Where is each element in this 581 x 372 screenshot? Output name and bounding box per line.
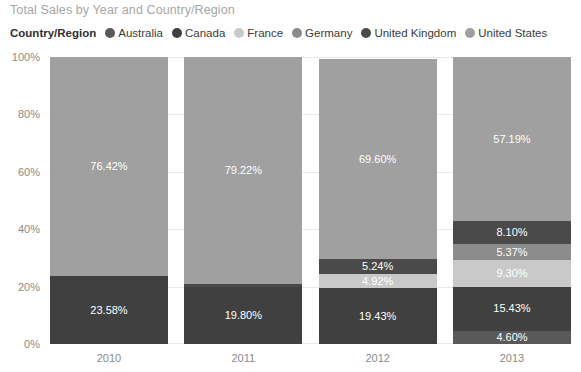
bar-stack: 4.60%15.43%9.30%5.37%8.10%57.19% [453, 57, 571, 344]
bar-segment[interactable]: 57.19% [453, 57, 571, 221]
bar-column-2010[interactable]: 23.58%76.42% [50, 57, 168, 344]
chart-container: Total Sales by Year and Country/Region C… [0, 0, 581, 372]
bar-value-label: 4.60% [496, 332, 527, 343]
bar-segment[interactable]: 23.58% [50, 276, 168, 344]
bar-value-label: 5.37% [496, 247, 527, 258]
plot-area: 0%20%40%60%80%100% 23.58%76.42%19.80%79.… [0, 0, 581, 372]
bar-column-2011[interactable]: 19.80%79.22% [184, 57, 302, 344]
bar-segment[interactable]: 76.42% [50, 57, 168, 276]
y-axis: 0%20%40%60%80%100% [0, 57, 46, 344]
x-axis: 2010201120122013 [50, 346, 571, 370]
y-axis-tick-label: 40% [18, 223, 40, 235]
bar-stack: 19.43%4.92%5.24%69.60% [319, 57, 437, 344]
bar-value-label: 23.58% [90, 305, 127, 316]
x-axis-tick-label: 2010 [50, 346, 168, 370]
bar-value-label: 79.22% [225, 165, 262, 176]
x-axis-tick-label: 2012 [319, 346, 437, 370]
bar-value-label: 76.42% [90, 161, 127, 172]
x-axis-tick-label: 2013 [453, 346, 571, 370]
y-axis-tick-label: 0% [24, 338, 40, 350]
bar-value-label: 19.80% [225, 310, 262, 321]
x-axis-tick-label: 2011 [184, 346, 302, 370]
bar-segment[interactable]: 15.43% [453, 287, 571, 331]
bar-stack: 19.80%79.22% [184, 57, 302, 344]
bar-segment[interactable]: 4.60% [453, 331, 571, 344]
bar-value-label: 8.10% [496, 227, 527, 238]
bar-segment[interactable]: 19.80% [184, 287, 302, 344]
bar-column-2013[interactable]: 4.60%15.43%9.30%5.37%8.10%57.19% [453, 57, 571, 344]
bar-value-label: 69.60% [359, 154, 396, 165]
bar-segment[interactable]: 19.43% [319, 288, 437, 344]
bar-column-2012[interactable]: 19.43%4.92%5.24%69.60% [319, 57, 437, 344]
bar-value-label: 9.30% [496, 268, 527, 279]
bar-segment[interactable]: 5.37% [453, 244, 571, 259]
bar-segment[interactable]: 9.30% [453, 260, 571, 287]
bar-segment[interactable]: 8.10% [453, 221, 571, 244]
bar-value-label: 4.92% [362, 276, 393, 287]
bar-value-label: 57.19% [493, 134, 530, 145]
bar-segment[interactable]: 79.22% [184, 57, 302, 284]
bar-stack: 23.58%76.42% [50, 57, 168, 344]
bar-value-label: 5.24% [362, 261, 393, 272]
bar-segment[interactable]: 5.24% [319, 259, 437, 274]
bar-segment[interactable]: 69.60% [319, 59, 437, 259]
bar-segment[interactable]: 4.92% [319, 274, 437, 288]
y-axis-tick-label: 100% [12, 51, 40, 63]
bar-value-label: 19.43% [359, 311, 396, 322]
y-axis-tick-label: 60% [18, 166, 40, 178]
bar-value-label: 15.43% [493, 303, 530, 314]
y-axis-tick-label: 80% [18, 108, 40, 120]
y-axis-tick-label: 20% [18, 281, 40, 293]
bars-container: 23.58%76.42%19.80%79.22%19.43%4.92%5.24%… [50, 57, 571, 344]
bar-segment[interactable] [184, 284, 302, 287]
